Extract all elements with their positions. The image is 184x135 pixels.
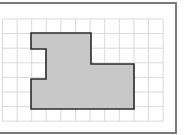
grid-figure [0, 0, 184, 135]
